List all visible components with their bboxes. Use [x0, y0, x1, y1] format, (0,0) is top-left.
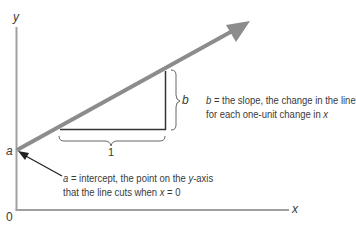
intercept-desc-tail: -axis	[193, 172, 213, 184]
y-axis-label: y	[13, 11, 19, 24]
regression-line	[17, 29, 236, 150]
x-axis-label: x	[292, 203, 298, 216]
rise-label: b	[182, 94, 189, 107]
slope-desc-text: = the slope, the change in the line	[211, 94, 355, 106]
intercept-description-line1: a = intercept, the point on the y-axis	[63, 172, 213, 185]
run-brace	[59, 136, 165, 146]
run-label: 1	[108, 146, 114, 159]
intercept-description-line2: that the line cuts when x = 0	[63, 186, 181, 199]
slope-description-line2: for each one-unit change in x	[206, 108, 328, 121]
intercept-desc-suffix: = 0	[164, 186, 180, 198]
slope-desc-var: x	[323, 108, 328, 120]
intercept-desc-text: = intercept, the point on the	[68, 172, 188, 184]
rise-brace	[171, 70, 180, 130]
slope-desc-text2: for each one-unit change in	[206, 108, 323, 120]
intercept-symbol: a	[6, 145, 13, 158]
intercept-arrowhead-icon	[18, 151, 29, 160]
intercept-desc-text2: that the line cuts when	[63, 186, 160, 198]
slope-description-line1: b = the slope, the change in the line	[206, 94, 356, 107]
intercept-pointer	[24, 155, 62, 176]
origin-label: 0	[6, 211, 13, 224]
